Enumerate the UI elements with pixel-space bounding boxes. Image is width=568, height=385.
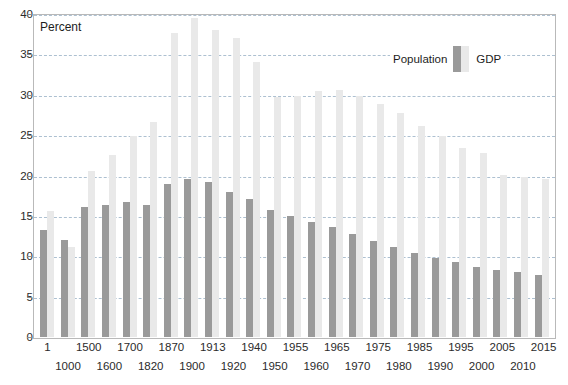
gridline-0 — [34, 338, 555, 339]
y-axis-tick-mark — [27, 135, 32, 136]
bar-group — [202, 16, 223, 337]
x-axis-tick-label: 1900 — [179, 360, 205, 372]
bar-population[interactable] — [61, 240, 68, 337]
bar-population[interactable] — [287, 216, 294, 337]
bar-group — [346, 16, 367, 337]
bar-group — [325, 16, 346, 337]
bar-population[interactable] — [81, 207, 88, 337]
bar-gdp[interactable] — [500, 175, 507, 337]
y-axis-tick-label: 10 — [0, 250, 33, 262]
x-axis-tick-label: 2015 — [531, 341, 557, 353]
x-axis-tick-label: 1000 — [55, 360, 81, 372]
bar-gdp[interactable] — [459, 148, 466, 337]
legend-swatch-population — [453, 46, 461, 72]
bar-gdp[interactable] — [88, 171, 95, 337]
bar-gdp[interactable] — [480, 153, 487, 337]
bar-gdp[interactable] — [294, 96, 301, 337]
bar-gdp[interactable] — [47, 211, 54, 337]
bar-gdp[interactable] — [212, 30, 219, 337]
bar-population[interactable] — [411, 253, 418, 337]
bar-gdp[interactable] — [253, 62, 260, 337]
x-axis-tick-label: 2010 — [510, 360, 536, 372]
bar-population[interactable] — [267, 210, 274, 337]
bar-population[interactable] — [535, 275, 542, 337]
bar-group — [181, 16, 202, 337]
bar-population[interactable] — [102, 205, 109, 337]
y-axis-tick-mark — [27, 54, 32, 55]
x-axis-tick-label: 1955 — [283, 341, 309, 353]
bar-population[interactable] — [432, 258, 439, 337]
y-axis-tick-label: 25 — [0, 129, 33, 141]
x-axis-tick-label: 1995 — [448, 341, 474, 353]
bar-population[interactable] — [473, 267, 480, 337]
bar-gdp[interactable] — [274, 97, 281, 337]
bar-gdp[interactable] — [397, 113, 404, 337]
bar-population[interactable] — [143, 205, 150, 337]
bar-group — [119, 16, 140, 337]
bar-group — [58, 16, 79, 337]
x-axis-tick-label: 1 — [44, 341, 50, 353]
bar-group — [284, 16, 305, 337]
x-axis-tick-label: 1980 — [386, 360, 412, 372]
bar-population[interactable] — [205, 182, 212, 337]
bar-gdp[interactable] — [356, 96, 363, 337]
bar-population[interactable] — [390, 247, 397, 337]
bar-gdp[interactable] — [68, 247, 75, 337]
bar-gdp[interactable] — [418, 126, 425, 337]
bar-gdp[interactable] — [542, 179, 549, 337]
bar-population[interactable] — [184, 179, 191, 337]
bar-population[interactable] — [40, 230, 47, 337]
x-axis-tick-label: 1500 — [76, 341, 102, 353]
bar-population[interactable] — [226, 192, 233, 337]
legend-label-gdp: GDP — [476, 53, 501, 65]
bar-group — [264, 16, 285, 337]
bar-gdp[interactable] — [233, 38, 240, 337]
chart-legend: Population GDP — [390, 44, 504, 74]
bar-population[interactable] — [452, 262, 459, 337]
x-axis-tick-label: 1600 — [97, 360, 123, 372]
y-axis-tick-label: 0 — [0, 331, 33, 343]
y-axis-tick-mark — [27, 216, 32, 217]
y-axis-tick-label: 40 — [0, 8, 33, 20]
x-axis-tick-label: 1940 — [241, 341, 267, 353]
bar-population[interactable] — [246, 199, 253, 337]
bar-gdp[interactable] — [191, 18, 198, 337]
legend-swatch — [453, 46, 470, 72]
bar-population[interactable] — [349, 234, 356, 337]
x-axis-tick-label: 1820 — [138, 360, 164, 372]
x-axis-tick-label: 1975 — [365, 341, 391, 353]
bar-gdp[interactable] — [130, 136, 137, 337]
y-axis-tick-label: 30 — [0, 89, 33, 101]
bar-population[interactable] — [308, 222, 315, 337]
bar-gdp[interactable] — [521, 177, 528, 337]
x-axis-tick-label: 1960 — [303, 360, 329, 372]
x-axis-tick-label: 1913 — [200, 341, 226, 353]
bar-gdp[interactable] — [150, 122, 157, 337]
x-axis-tick-label: 1970 — [345, 360, 371, 372]
bar-gdp[interactable] — [109, 155, 116, 337]
bar-gdp[interactable] — [171, 33, 178, 337]
bar-gdp[interactable] — [315, 91, 322, 337]
y-axis-tick-label: 20 — [0, 170, 33, 182]
bar-group — [222, 16, 243, 337]
bar-gdp[interactable] — [439, 136, 446, 337]
legend-swatch-gdp — [461, 46, 469, 72]
bar-group — [305, 16, 326, 337]
bar-group — [161, 16, 182, 337]
bar-population[interactable] — [123, 202, 130, 337]
y-axis-tick-mark — [27, 337, 32, 338]
x-axis-tick-label: 1920 — [221, 360, 247, 372]
bar-population[interactable] — [329, 227, 336, 337]
y-axis-tick-mark — [27, 95, 32, 96]
chart-container: Percent 0510152025303540 Population GDP … — [0, 0, 568, 385]
bar-group — [511, 16, 532, 337]
x-axis-tick-label: 2005 — [490, 341, 516, 353]
bar-gdp[interactable] — [377, 104, 384, 337]
bar-population[interactable] — [370, 241, 377, 337]
bar-population[interactable] — [493, 270, 500, 337]
bar-population[interactable] — [164, 184, 171, 337]
bar-gdp[interactable] — [336, 90, 343, 337]
bar-group — [531, 16, 552, 337]
x-axis-tick-label: 1950 — [262, 360, 288, 372]
bar-population[interactable] — [514, 272, 521, 337]
